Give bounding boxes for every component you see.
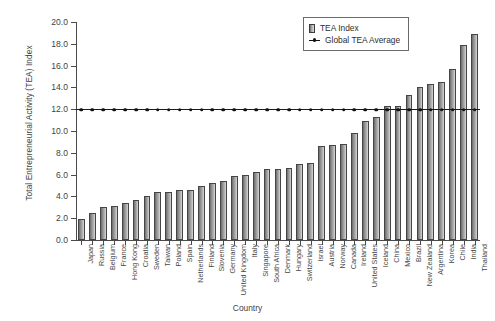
bar-slot bbox=[404, 22, 415, 240]
bar-slot bbox=[229, 22, 240, 240]
bar bbox=[220, 181, 227, 240]
bar-slot bbox=[174, 22, 185, 240]
bar-slot bbox=[185, 22, 196, 240]
bar-slot bbox=[98, 22, 109, 240]
bar-slot bbox=[305, 22, 316, 240]
average-line-marker bbox=[462, 108, 466, 112]
bar bbox=[187, 190, 194, 240]
bar-slot bbox=[338, 22, 349, 240]
bar bbox=[460, 45, 467, 240]
x-axis-category-label: Singapore bbox=[259, 244, 268, 277]
x-axis-category-label: United States bbox=[368, 244, 377, 287]
bar-slot bbox=[393, 22, 404, 240]
x-axis-category-label: Israel bbox=[314, 244, 323, 262]
average-line-marker bbox=[167, 108, 171, 112]
bar-slot bbox=[414, 22, 425, 240]
average-line-marker bbox=[385, 108, 389, 112]
x-axis-category-label: India bbox=[467, 244, 476, 260]
bar-slot bbox=[316, 22, 327, 240]
bar bbox=[307, 163, 314, 240]
line-marker-icon bbox=[309, 36, 320, 45]
bar bbox=[318, 146, 325, 240]
average-line-marker bbox=[309, 108, 313, 112]
x-axis-category-label: Croatia bbox=[139, 244, 148, 267]
average-line-marker bbox=[473, 108, 477, 112]
y-axis-tick-label: 16.0 bbox=[51, 61, 68, 71]
x-axis-category-label: Spain bbox=[183, 244, 192, 262]
x-axis-category-label: Denmark bbox=[281, 244, 290, 273]
bar-slot bbox=[371, 22, 382, 240]
bar bbox=[176, 190, 183, 240]
y-axis-tick-label: 14.0 bbox=[51, 82, 68, 92]
x-axis-category-label: Slovenia bbox=[215, 244, 224, 272]
bar bbox=[253, 172, 260, 240]
bar bbox=[362, 121, 369, 240]
bar bbox=[78, 219, 85, 240]
x-axis-category-labels: JapanRussiaBelgiumFranceHong KongCroatia… bbox=[76, 244, 480, 306]
x-axis-category-label: Argentina bbox=[434, 244, 443, 275]
bar-slot bbox=[273, 22, 284, 240]
bar-slot bbox=[76, 22, 87, 240]
x-axis-category-label: Thailand bbox=[478, 244, 487, 272]
bar bbox=[286, 168, 293, 240]
bar-slot bbox=[152, 22, 163, 240]
bar bbox=[449, 69, 456, 240]
bar-slot bbox=[294, 22, 305, 240]
bar-slot bbox=[469, 22, 480, 240]
x-axis-category-label: Italy bbox=[248, 244, 257, 257]
average-line-marker bbox=[243, 108, 247, 112]
average-line-marker bbox=[374, 108, 378, 112]
average-line-marker bbox=[331, 108, 335, 112]
bar-slot bbox=[163, 22, 174, 240]
bar bbox=[133, 200, 140, 240]
plot-area: 20.018.016.014.012.010.08.06.04.02.00.0 bbox=[76, 22, 480, 240]
bar bbox=[144, 196, 151, 240]
average-line-marker bbox=[189, 108, 193, 112]
x-axis-category-label: Mexico bbox=[401, 244, 410, 267]
x-axis-category-label: Norway bbox=[336, 244, 345, 268]
average-line-marker bbox=[440, 108, 444, 112]
average-line-marker bbox=[396, 108, 400, 112]
bar-series bbox=[76, 22, 480, 240]
x-axis-category-label: Austria bbox=[325, 244, 334, 266]
bar bbox=[471, 34, 478, 240]
bar-slot bbox=[207, 22, 218, 240]
y-axis-tick-label: 8.0 bbox=[56, 148, 68, 158]
average-line-marker bbox=[102, 108, 106, 112]
bar bbox=[209, 183, 216, 240]
bar bbox=[395, 106, 402, 240]
x-axis-category-label: Iceland bbox=[379, 244, 388, 267]
x-axis-category-label: Finland bbox=[205, 244, 214, 268]
average-line-marker bbox=[418, 108, 422, 112]
x-axis-category-label: Chile bbox=[456, 244, 465, 260]
bar bbox=[242, 175, 249, 240]
average-line-marker bbox=[276, 108, 280, 112]
average-line-marker bbox=[145, 108, 149, 112]
x-axis-category-label: China bbox=[390, 244, 399, 263]
average-line-marker bbox=[254, 108, 258, 112]
average-line-marker bbox=[134, 108, 138, 112]
x-axis-category-label: Hungary bbox=[292, 244, 301, 271]
bar-slot bbox=[196, 22, 207, 240]
bar-slot bbox=[262, 22, 273, 240]
legend-item-global-average: Global TEA Average bbox=[309, 34, 400, 46]
x-axis-category-label: South Africa bbox=[270, 244, 279, 283]
x-axis-category-label: Belgium bbox=[106, 244, 115, 270]
y-axis-tick-label: 0.0 bbox=[56, 235, 68, 245]
average-line-marker bbox=[211, 108, 215, 112]
bar-slot bbox=[131, 22, 142, 240]
average-line-marker bbox=[298, 108, 302, 112]
chart-legend: TEA Index Global TEA Average bbox=[303, 17, 409, 51]
bar-slot bbox=[251, 22, 262, 240]
bar bbox=[100, 207, 107, 240]
bar-slot bbox=[382, 22, 393, 240]
bar-slot bbox=[360, 22, 371, 240]
bar-slot bbox=[436, 22, 447, 240]
average-line-marker bbox=[233, 108, 237, 112]
x-axis-category-label: Switzerland bbox=[303, 244, 312, 281]
bar bbox=[198, 186, 205, 241]
bar-slot bbox=[425, 22, 436, 240]
bar bbox=[296, 164, 303, 240]
average-line-marker bbox=[222, 108, 226, 112]
y-axis-tick-label: 10.0 bbox=[51, 126, 68, 136]
